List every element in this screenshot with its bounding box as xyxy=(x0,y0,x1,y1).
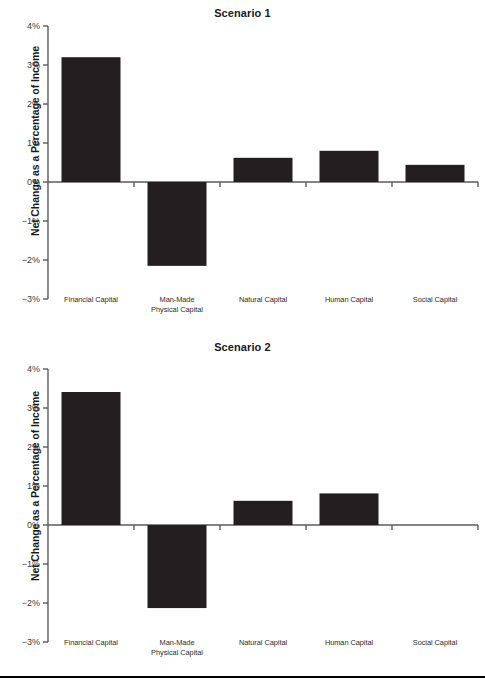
bar xyxy=(406,165,465,182)
x-tick-label: Social Capital xyxy=(392,638,478,648)
footer-divider xyxy=(0,676,485,678)
chart-scenario-2: Scenario 2 Net Change as a Percentage of… xyxy=(0,330,485,681)
x-tick-label: Man-MadePhysical Capital xyxy=(134,295,220,314)
x-tick-label: Natural Capital xyxy=(220,638,306,648)
plot-area xyxy=(0,0,485,330)
x-tick-label: Man-MadePhysical Capital xyxy=(134,638,220,657)
bar xyxy=(320,493,379,525)
bar xyxy=(320,151,379,182)
bar xyxy=(148,525,207,608)
x-tick-label: Human Capital xyxy=(306,295,392,305)
plot-area xyxy=(0,330,485,681)
bar xyxy=(62,57,121,182)
x-tick-label: Social Capital xyxy=(392,295,478,305)
x-tick-label: Financial Capital xyxy=(48,638,134,648)
bar xyxy=(62,392,121,525)
chart-scenario-1: Scenario 1 Net Change as a Percentage of… xyxy=(0,0,485,330)
x-tick-label: Natural Capital xyxy=(220,295,306,305)
bar xyxy=(148,182,207,266)
bar xyxy=(234,158,293,182)
figure-page: Scenario 1 Net Change as a Percentage of… xyxy=(0,0,485,681)
bar xyxy=(234,501,293,525)
x-tick-label: Human Capital xyxy=(306,638,392,648)
x-tick-label: Financial Capital xyxy=(48,295,134,305)
